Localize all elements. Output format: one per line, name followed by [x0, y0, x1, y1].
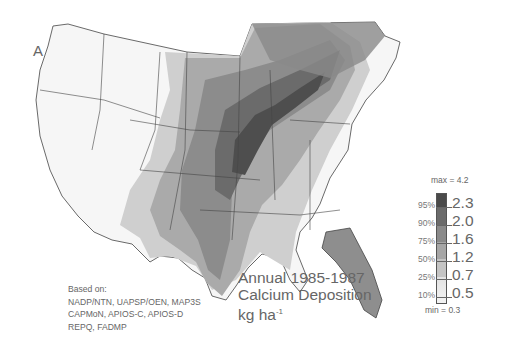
legend-class: 75%1.6: [408, 233, 511, 247]
legend-class: 95%2.3: [408, 197, 511, 211]
legend-class: 25%0.7: [408, 269, 511, 283]
legend-class: 90%2.0: [408, 215, 511, 229]
source-line: CAPMoN, APIOS-C, APIOS-D: [68, 308, 201, 321]
title-line-1: Annual 1985-1987: [238, 269, 372, 286]
legend-min: min = 0.3: [425, 305, 460, 315]
title-line-2: Calcium Deposition: [238, 286, 372, 303]
title-unit: kg ha-1: [238, 303, 372, 323]
map-title: Annual 1985-1987 Calcium Deposition kg h…: [238, 269, 372, 323]
source-line: NADP/NTN, UAPSP/OEN, MAP3S: [68, 296, 201, 309]
source-heading: Based on:: [68, 283, 201, 296]
legend-max: max = 4.2: [431, 175, 469, 185]
panel-label: A: [33, 42, 43, 59]
legend: max = 4.2 95%2.3 90%2.0 75%1.6 50%1.2 25…: [408, 175, 511, 345]
legend-class: 50%1.2: [408, 251, 511, 265]
legend-class: 10%0.5: [408, 287, 511, 301]
source-line: REPQ, FADMP: [68, 321, 201, 334]
data-sources: Based on: NADP/NTN, UAPSP/OEN, MAP3S CAP…: [68, 283, 201, 333]
